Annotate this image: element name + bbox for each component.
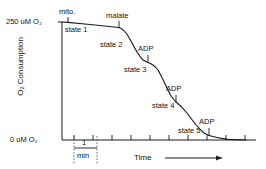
oxygen-consumption-figure: O₂ Consumption 250 uM O₂ 0 uM O₂ 1 min T… (0, 0, 266, 169)
annotation-state-4: state 4 (152, 102, 175, 110)
annotation-state-2: state 2 (100, 41, 123, 49)
annotation-malate: malate (106, 12, 129, 20)
y-tick-label-bottom: 0 uM O₂ (10, 136, 38, 144)
scalebar-unit-label: min (77, 152, 89, 160)
y-axis-title: O₂ Consumption (16, 22, 25, 112)
time-arrow-icon (165, 156, 222, 161)
annotation-adp-2: ADP (166, 85, 181, 93)
annotation-adp-1: ADP (138, 45, 153, 53)
annotation-state-1: state 1 (65, 26, 88, 34)
annotation-state-3: state 3 (124, 66, 147, 74)
scalebar-value-label: 1 (82, 139, 86, 147)
y-tick-label-top: 250 uM O₂ (6, 18, 42, 26)
oxygen-trace-line (62, 22, 246, 140)
x-axis-title: Time (134, 154, 151, 162)
annotation-state-5: state 5 (178, 127, 201, 135)
event-markers (68, 17, 209, 136)
annotation-mito: mito. (59, 8, 75, 16)
annotation-adp-3: ADP (199, 118, 214, 126)
